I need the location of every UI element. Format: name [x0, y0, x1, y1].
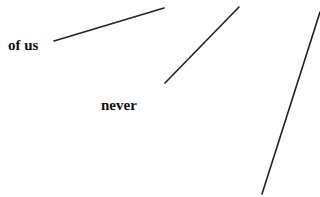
leader-line-3 [262, 12, 320, 194]
leader-line-2 [165, 7, 239, 83]
diagram-canvas: of us never [0, 0, 320, 197]
label-never: never [101, 98, 137, 113]
label-of-us: of us [8, 38, 38, 53]
leader-line-1 [54, 8, 164, 41]
leader-lines [0, 0, 320, 197]
